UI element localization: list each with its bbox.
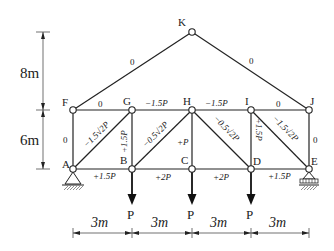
load-arrow-B: P	[127, 172, 137, 222]
member-force-labels: 0 0 0 −1.5P −1.5P 0 0 0 +P −1.5√2P −0.5√…	[63, 56, 318, 182]
load-arrow-C: P	[187, 172, 197, 222]
vertical-dimension: 8m 6m	[8, 32, 50, 169]
force-DE: +1.5P	[268, 171, 291, 181]
joint-J	[306, 107, 312, 113]
joint-I	[248, 107, 254, 113]
node-labels: K F G H I J A B C D E	[62, 16, 318, 170]
joint-B	[129, 166, 135, 172]
pin-support-A	[62, 172, 84, 190]
label-F: F	[62, 96, 68, 108]
label-C: C	[181, 154, 188, 166]
load-arrow-D: P	[246, 172, 256, 222]
joint-G	[129, 107, 135, 113]
joint-H	[189, 107, 195, 113]
label-G: G	[123, 95, 131, 107]
force-FG: 0	[98, 99, 103, 109]
force-HI: −1.5P	[205, 98, 228, 108]
joint-C	[189, 166, 195, 172]
member-FK	[73, 32, 192, 110]
joint-F	[70, 107, 76, 113]
dim-span-2: 3m	[150, 215, 168, 230]
joint-A	[70, 166, 76, 172]
dim-6m: 6m	[20, 132, 40, 148]
label-A: A	[62, 158, 70, 170]
label-K: K	[178, 16, 186, 28]
load-label-D: P	[246, 207, 253, 222]
label-E: E	[311, 155, 318, 167]
force-KJ: 0	[249, 56, 254, 66]
force-EI: −1.5√2P	[271, 113, 301, 143]
label-J: J	[310, 95, 315, 107]
force-BH: −0.5√2P	[140, 119, 170, 149]
label-H: H	[183, 95, 191, 107]
force-BG: +1.5P	[119, 130, 129, 153]
force-CH: +P	[177, 137, 189, 147]
force-DH: −0.5√2P	[212, 113, 242, 143]
label-I: I	[245, 95, 249, 107]
force-AB: +1.5P	[93, 171, 116, 181]
load-label-B: P	[127, 207, 134, 222]
joint-K	[189, 29, 195, 35]
roller-support-E	[299, 172, 319, 190]
dim-span-1: 3m	[90, 215, 108, 230]
force-EJ: 0	[313, 135, 318, 145]
dim-span-3: 3m	[209, 215, 227, 230]
force-IJ: 0	[276, 99, 281, 109]
force-DI: +1.5P	[254, 118, 264, 141]
label-D: D	[253, 155, 261, 167]
force-GH: −1.5P	[145, 98, 168, 108]
dim-span-4: 3m	[268, 215, 286, 230]
load-label-C: P	[187, 207, 194, 222]
force-BC: +2P	[155, 172, 172, 182]
label-B: B	[120, 154, 127, 166]
force-CD: +2P	[213, 172, 230, 182]
members	[73, 32, 309, 169]
force-AF: 0	[63, 135, 68, 145]
dim-8m: 8m	[20, 65, 40, 81]
force-FK: 0	[130, 57, 135, 67]
truss-diagram: 8m 6m	[0, 0, 334, 251]
loads: P P P	[127, 172, 256, 222]
